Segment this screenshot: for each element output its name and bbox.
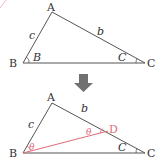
angle-b-label: B (32, 51, 41, 64)
vertex-c-label: C (147, 57, 155, 70)
angle-c-label: C (118, 51, 127, 64)
angle-c-label-bottom: C (118, 141, 127, 154)
side-c-label: c (29, 29, 35, 42)
vertex-a-label-bottom: A (46, 91, 56, 104)
angle-c-arc-bottom (136, 149, 137, 154)
segment-bd (23, 131, 108, 153)
side-b-label: b (97, 25, 104, 38)
vertex-d-label: D (109, 123, 118, 136)
angle-c-arc (136, 59, 137, 64)
vertex-b-label: B (9, 57, 17, 70)
side-c-label-bottom: c (28, 118, 34, 131)
down-arrow-icon (74, 74, 93, 92)
angle-theta-d-label: θ (86, 127, 92, 137)
angle-theta-b-label: θ (29, 142, 35, 152)
vertex-b-label-bottom: B (9, 147, 17, 160)
triangle-diagram: A B C c b B C A B C D c b θ θ C (0, 0, 167, 168)
corner-mark (0, 0, 6, 8)
top-triangle (23, 12, 145, 63)
side-b-label-bottom: b (81, 102, 88, 115)
vertex-c-label-bottom: C (147, 147, 155, 160)
vertex-a-label: A (46, 1, 56, 14)
